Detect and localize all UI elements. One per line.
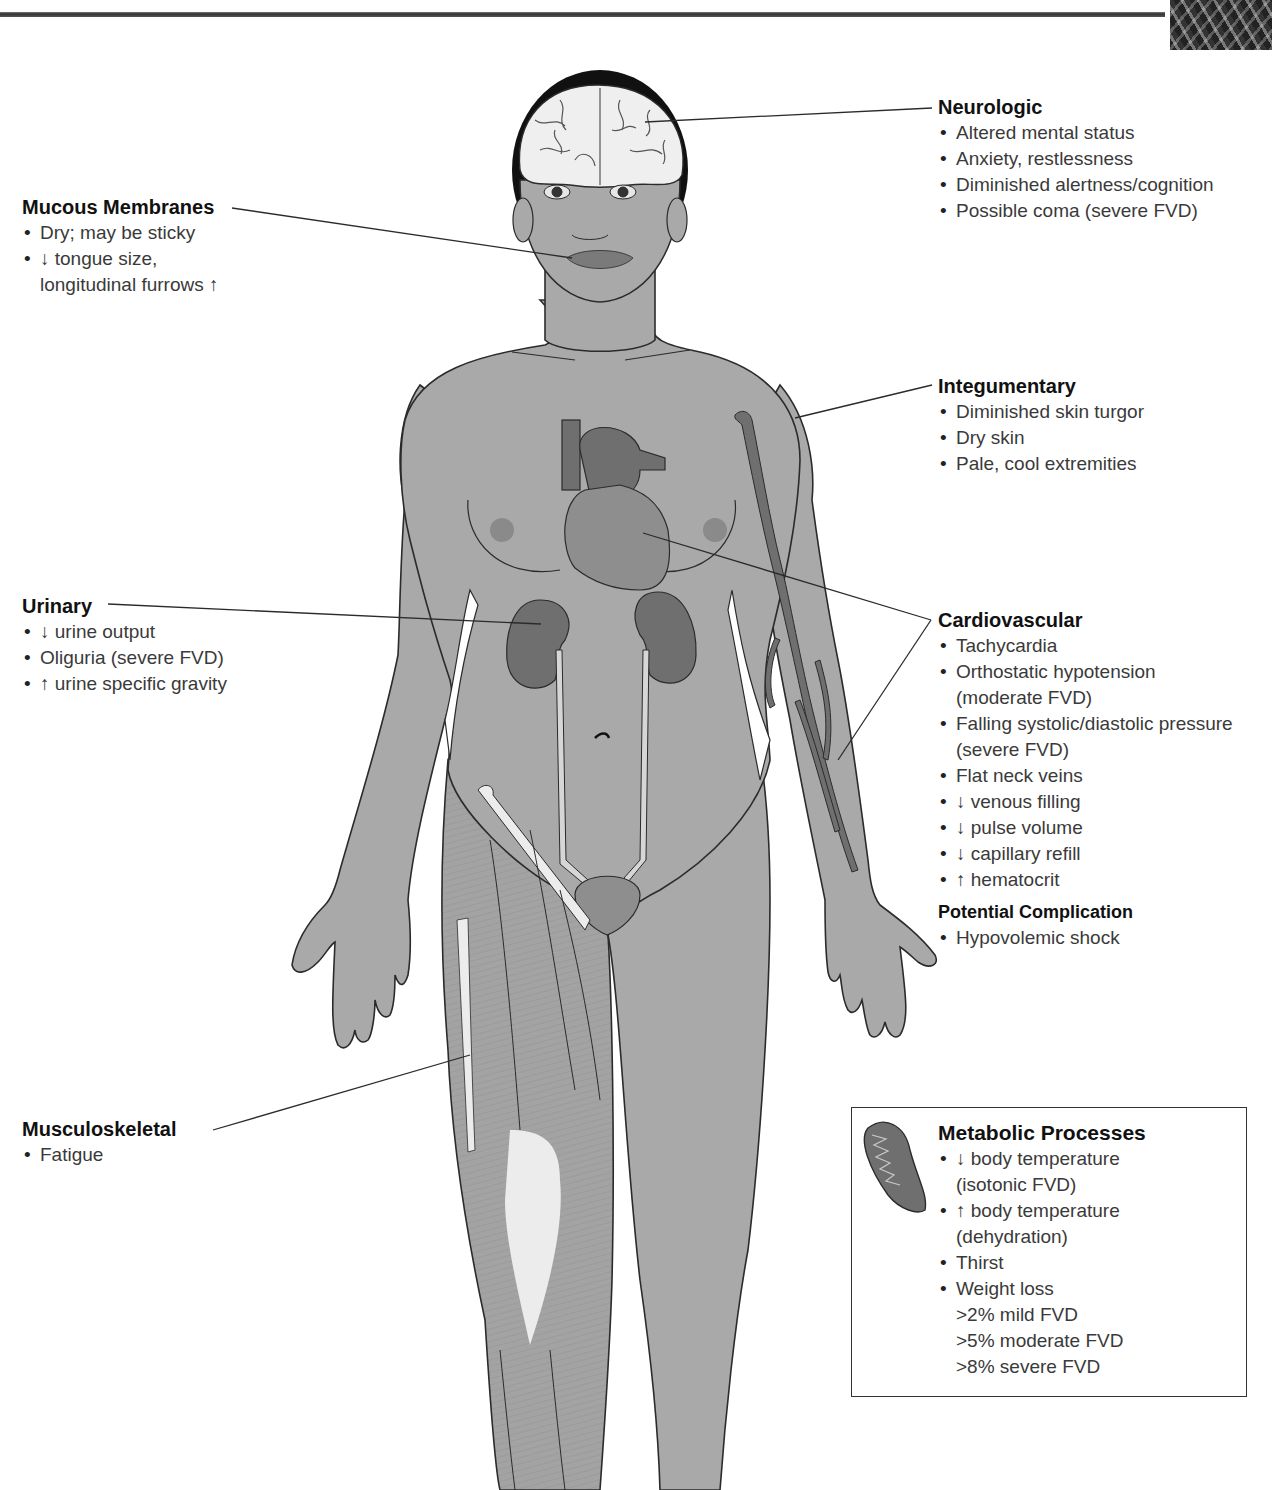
list-item: ↑ urine specific gravity xyxy=(22,671,227,697)
list-item: ↑ hematocrit xyxy=(938,867,1233,893)
list-item: Dry; may be sticky xyxy=(22,220,218,246)
leader-integumentary xyxy=(795,385,932,418)
list-item: Hypovolemic shock xyxy=(938,925,1233,951)
list-item-continuation: (isotonic FVD) xyxy=(938,1172,1146,1198)
section-metabolic-processes: Metabolic Processes ↓ body temperature (… xyxy=(938,1120,1146,1380)
sub-item: >5% moderate FVD xyxy=(938,1328,1146,1354)
list-item: ↓ venous filling xyxy=(938,789,1233,815)
section-neurologic: Neurologic Altered mental status Anxiety… xyxy=(938,94,1214,224)
list-item: Fatigue xyxy=(22,1142,177,1168)
list-item-continuation: (severe FVD) xyxy=(938,737,1233,763)
list-item: ↓ tongue size, xyxy=(22,246,218,272)
list-item: ↓ urine output xyxy=(22,619,227,645)
section-mucous-membranes: Mucous Membranes Dry; may be sticky ↓ to… xyxy=(22,194,218,298)
list-item: Pale, cool extremities xyxy=(938,451,1144,477)
section-title: Metabolic Processes xyxy=(938,1120,1146,1146)
list-item: Anxiety, restlessness xyxy=(938,146,1214,172)
list-item: ↓ capillary refill xyxy=(938,841,1233,867)
section-title: Mucous Membranes xyxy=(22,194,218,220)
section-cardiovascular: Cardiovascular Tachycardia Orthostatic h… xyxy=(938,607,1233,951)
list-item: Thirst xyxy=(938,1250,1146,1276)
leader-neurologic xyxy=(645,108,932,122)
list-item: Tachycardia xyxy=(938,633,1233,659)
list-item: Altered mental status xyxy=(938,120,1214,146)
section-title: Cardiovascular xyxy=(938,607,1233,633)
section-title: Neurologic xyxy=(938,94,1214,120)
list-item: Weight loss xyxy=(938,1276,1146,1302)
list-item-continuation: longitudinal furrows ↑ xyxy=(22,272,218,298)
list-item: Falling systolic/diastolic pressure xyxy=(938,711,1233,737)
section-title-potential-complication: Potential Complication xyxy=(938,899,1233,925)
list-item: Dry skin xyxy=(938,425,1144,451)
list-item: Diminished skin turgor xyxy=(938,399,1144,425)
sub-item: >8% severe FVD xyxy=(938,1354,1146,1380)
list-item: Diminished alertness/cognition xyxy=(938,172,1214,198)
list-item-continuation: (moderate FVD) xyxy=(938,685,1233,711)
section-urinary: Urinary ↓ urine output Oliguria (severe … xyxy=(22,593,227,697)
list-item: Orthostatic hypotension xyxy=(938,659,1233,685)
list-item: Flat neck veins xyxy=(938,763,1233,789)
section-title: Integumentary xyxy=(938,373,1144,399)
list-item-continuation: (dehydration) xyxy=(938,1224,1146,1250)
section-title: Musculoskeletal xyxy=(22,1116,177,1142)
list-item: ↓ pulse volume xyxy=(938,815,1233,841)
sub-item: >2% mild FVD xyxy=(938,1302,1146,1328)
list-item: Oliguria (severe FVD) xyxy=(22,645,227,671)
list-item: ↓ body temperature xyxy=(938,1146,1146,1172)
list-item: ↑ body temperature xyxy=(938,1198,1146,1224)
leader-cardiovascular-veins xyxy=(838,620,931,760)
section-integumentary: Integumentary Diminished skin turgor Dry… xyxy=(938,373,1144,477)
section-musculoskeletal: Musculoskeletal Fatigue xyxy=(22,1116,177,1168)
leader-musculoskeletal xyxy=(213,1055,470,1130)
list-item: Possible coma (severe FVD) xyxy=(938,198,1214,224)
section-title: Urinary xyxy=(22,593,227,619)
